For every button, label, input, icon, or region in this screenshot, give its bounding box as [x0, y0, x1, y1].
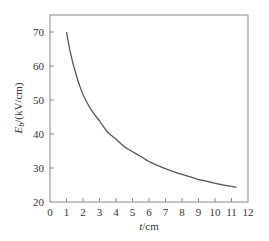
x-tick-label: 12 [243, 206, 254, 218]
y-tick-label: 50 [33, 94, 45, 106]
x-tick-label: 3 [97, 206, 103, 218]
plot-border [50, 15, 248, 202]
y-tick-label: 40 [33, 128, 45, 140]
plot-frame [50, 15, 248, 202]
x-tick-label: 5 [130, 206, 136, 218]
data-line [67, 32, 237, 187]
y-tick-label: 60 [33, 60, 45, 72]
x-tick-label: 11 [226, 206, 237, 218]
x-tick-label: 6 [146, 206, 152, 218]
y-tick-label: 20 [33, 196, 45, 208]
x-tick-label: 1 [64, 206, 70, 218]
x-tick-label: 8 [179, 206, 185, 218]
y-axis-ticks: 203040506070 [33, 26, 54, 208]
chart: 0123456789101112 203040506070 t/cm Eb/(k… [0, 0, 269, 241]
x-tick-label: 7 [163, 206, 169, 218]
x-tick-label: 0 [47, 206, 53, 218]
y-axis-label: Eb/(kV/cm) [12, 82, 26, 134]
x-tick-label: 9 [196, 206, 202, 218]
y-tick-label: 70 [33, 26, 45, 38]
x-tick-label: 4 [113, 206, 119, 218]
x-axis-ticks: 0123456789101112 [47, 198, 253, 218]
x-axis-label: t/cm [139, 220, 159, 232]
x-tick-label: 2 [80, 206, 86, 218]
x-tick-label: 10 [210, 206, 222, 218]
y-tick-label: 30 [33, 162, 45, 174]
